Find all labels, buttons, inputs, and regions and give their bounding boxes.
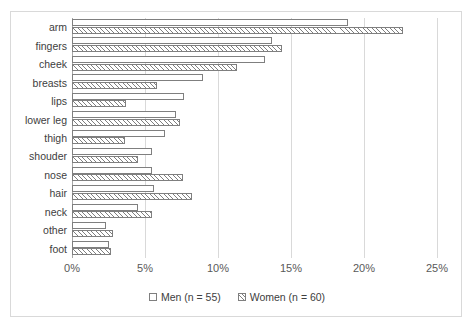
x-tick-label-5%: 5% — [137, 262, 153, 274]
bar-women-thigh — [72, 137, 125, 144]
category-label-lips: lips — [51, 95, 67, 107]
bar-men-lower-leg — [72, 111, 176, 118]
category-row: nose — [72, 166, 437, 184]
bar-men-neck — [72, 204, 138, 211]
bar-women-lower-leg — [72, 119, 180, 126]
bar-men-breasts — [72, 74, 203, 81]
legend-item-women[interactable]: Women (n = 60) — [238, 291, 325, 303]
category-row: lower leg — [72, 110, 437, 128]
category-row: other — [72, 221, 437, 239]
category-label-other: other — [43, 224, 67, 236]
x-axis-tick-labels: 0%5%10%15%20%25% — [0, 262, 474, 282]
bar-women-neck — [72, 211, 152, 218]
x-tick-label-10%: 10% — [207, 262, 229, 274]
category-row: hair — [72, 184, 437, 202]
bar-men-shouder — [72, 148, 152, 155]
chart-legend: Men (n = 55)Women (n = 60) — [0, 291, 474, 303]
category-row: cheek — [72, 55, 437, 73]
category-row: shouder — [72, 147, 437, 165]
bar-women-cheek — [72, 64, 237, 71]
bar-women-breasts — [72, 82, 157, 89]
bar-women-lips — [72, 100, 126, 107]
hatched-square-icon — [238, 293, 246, 301]
legend-label: Men (n = 55) — [161, 291, 221, 303]
bar-women-nose — [72, 174, 183, 181]
category-label-arm: arm — [49, 21, 67, 33]
x-tick-label-15%: 15% — [280, 262, 302, 274]
category-label-foot: foot — [49, 243, 67, 255]
bar-men-foot — [72, 241, 109, 248]
bar-men-arm — [72, 19, 348, 26]
legend-item-men[interactable]: Men (n = 55) — [149, 291, 221, 303]
legend-label: Women (n = 60) — [250, 291, 325, 303]
bar-men-fingers — [72, 37, 272, 44]
category-row: lips — [72, 92, 437, 110]
category-label-breasts: breasts — [33, 77, 67, 89]
bar-men-cheek — [72, 56, 265, 63]
bar-men-nose — [72, 167, 152, 174]
category-label-lower-leg: lower leg — [25, 114, 67, 126]
category-label-shouder: shouder — [29, 150, 67, 162]
category-label-hair: hair — [49, 187, 67, 199]
category-row: neck — [72, 203, 437, 221]
category-row: arm — [72, 18, 437, 36]
bar-men-other — [72, 222, 106, 229]
x-tick-label-20%: 20% — [353, 262, 375, 274]
bar-men-lips — [72, 93, 184, 100]
gridline-25% — [437, 18, 438, 258]
category-label-nose: nose — [44, 169, 67, 181]
category-label-fingers: fingers — [35, 40, 67, 52]
bar-women-arm — [72, 27, 403, 34]
bar-women-other — [72, 230, 113, 237]
category-row: breasts — [72, 73, 437, 91]
bar-men-hair — [72, 185, 154, 192]
category-label-neck: neck — [45, 206, 67, 218]
bar-men-thigh — [72, 130, 165, 137]
plot-area: armfingerscheekbreastslipslower legthigh… — [72, 18, 437, 258]
category-row: fingers — [72, 36, 437, 54]
bar-women-hair — [72, 193, 192, 200]
x-tick-label-0%: 0% — [64, 262, 80, 274]
bar-chart: armfingerscheekbreastslipslower legthigh… — [0, 0, 474, 332]
category-label-cheek: cheek — [39, 58, 67, 70]
bar-women-shouder — [72, 156, 138, 163]
category-label-thigh: thigh — [44, 132, 67, 144]
bar-women-fingers — [72, 45, 282, 52]
x-tick-label-25%: 25% — [426, 262, 448, 274]
bar-women-foot — [72, 248, 111, 255]
category-row: foot — [72, 240, 437, 258]
category-row: thigh — [72, 129, 437, 147]
empty-square-icon — [149, 293, 157, 301]
